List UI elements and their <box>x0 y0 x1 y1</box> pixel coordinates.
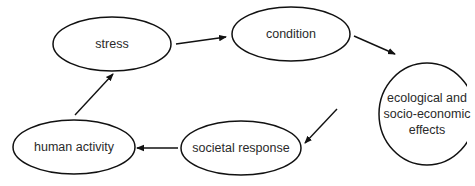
node-stress-label: stress <box>53 17 171 71</box>
edge-human-activity-to-stress <box>75 74 113 115</box>
node-human-activity-label: human activity <box>13 120 135 174</box>
node-societal-response-label: societal response <box>181 121 301 175</box>
edge-stress-to-condition <box>176 37 226 44</box>
edge-effects-to-societal-response <box>305 109 337 143</box>
edge-condition-to-effects <box>354 36 395 54</box>
node-condition-label: condition <box>232 7 350 61</box>
node-effects-label: ecological and socio-economic effects <box>379 63 475 165</box>
